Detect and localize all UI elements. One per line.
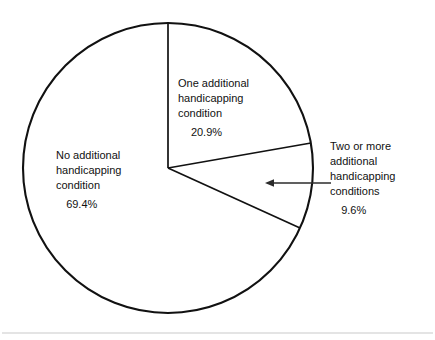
slice-label-line: condition <box>178 106 249 121</box>
slice-label-line: One additional <box>178 76 249 91</box>
slice-label-line: conditions <box>330 184 395 199</box>
slice-label-line: Two or more <box>330 139 395 154</box>
slice-label-line: additional <box>330 154 395 169</box>
slice-label-line: handicapping <box>56 163 121 178</box>
slice-label-line: handicapping <box>330 169 395 184</box>
pie-chart-figure: No additional handicapping condition 69.… <box>0 0 435 340</box>
slice-label-line: condition <box>56 178 121 193</box>
slice-label-no-additional: No additional handicapping condition 69.… <box>56 148 121 212</box>
slice-label-line: No additional <box>56 148 121 163</box>
slice-label-line: handicapping <box>178 91 249 106</box>
slice-divider-upper-right <box>168 143 311 168</box>
slice-percent-two-or-more: 9.6% <box>330 203 395 218</box>
slice-percent-one-additional: 20.9% <box>178 125 249 140</box>
slice-percent-no-additional: 69.4% <box>56 197 121 212</box>
slice-label-one-additional: One additional handicapping condition 20… <box>178 76 249 140</box>
callout-arrow-icon <box>265 179 274 187</box>
slice-label-two-or-more: Two or more additional handicapping cond… <box>330 139 395 218</box>
slice-divider-lower-right <box>168 168 300 228</box>
